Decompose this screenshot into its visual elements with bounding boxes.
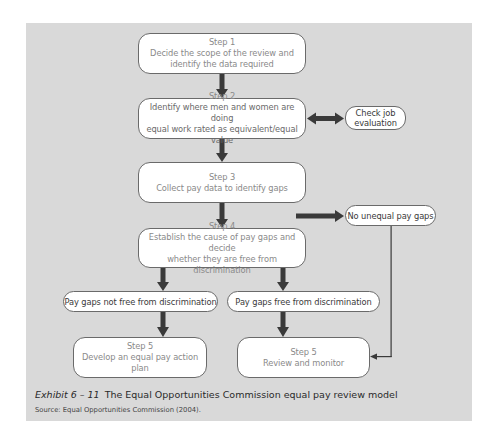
step-5a-heading: Step 5 bbox=[127, 341, 153, 352]
step-2-heading: Step 2 bbox=[209, 91, 235, 102]
check-job-line1: Check job bbox=[356, 108, 396, 118]
step-3-box: Step 3 Collect pay data to identify gaps bbox=[138, 162, 306, 203]
check-job-line2: evaluation bbox=[354, 118, 397, 128]
step-5-action-plan-box: Step 5 Develop an equal pay action plan bbox=[73, 337, 207, 378]
step-3-text-line1: Collect pay data to identify gaps bbox=[156, 183, 288, 194]
step-1-box: Step 1 Decide the scope of the review an… bbox=[138, 33, 306, 74]
pay-gaps-not-free-node: Pay gaps not free from discrimination bbox=[63, 291, 218, 312]
figure-source: Source: Equal Opportunities Commission (… bbox=[35, 406, 201, 414]
step-1-text-line1: Decide the scope of the review and bbox=[150, 48, 294, 59]
pay-gaps-free-node: Pay gaps free from discrimination bbox=[227, 291, 380, 312]
step-1-heading: Step 1 bbox=[209, 37, 235, 48]
step-3-heading: Step 3 bbox=[209, 172, 235, 183]
no-unequal-pay-gaps-node: No unequal pay gaps bbox=[345, 205, 436, 226]
step-5-review-box: Step 5 Review and monitor bbox=[237, 337, 370, 378]
step-1-text-line2: identify the data required bbox=[170, 59, 274, 70]
step-4-box: Step 4 Establish the cause of pay gaps a… bbox=[138, 228, 306, 268]
step-4-text-line2: whether they are free from discriminatio… bbox=[139, 254, 305, 276]
step-2-text-line2: equal work rated as equivalent/equal val… bbox=[139, 124, 305, 146]
free-label: Pay gaps free from discrimination bbox=[235, 297, 371, 307]
step-2-box: Step 2 Identify where men and women are … bbox=[138, 98, 306, 139]
not-free-label: Pay gaps not free from discrimination bbox=[64, 297, 216, 307]
exhibit-number: Exhibit 6 – 11 bbox=[35, 389, 100, 400]
no-gaps-label: No unequal pay gaps bbox=[347, 211, 433, 221]
step-5b-text: Review and monitor bbox=[263, 358, 344, 369]
step-5a-text: Develop an equal pay action plan bbox=[74, 352, 206, 374]
figure-caption: Exhibit 6 – 11The Equal Opportunities Co… bbox=[35, 389, 398, 400]
step-4-heading: Step 4 bbox=[209, 221, 235, 232]
step-2-text-line1: Identify where men and women are doing bbox=[139, 102, 305, 124]
step-4-text-line1: Establish the cause of pay gaps and deci… bbox=[139, 232, 305, 254]
step-5b-heading: Step 5 bbox=[290, 347, 316, 358]
check-job-evaluation-node: Check job evaluation bbox=[345, 106, 406, 130]
caption-title: The Equal Opportunities Commission equal… bbox=[105, 389, 398, 400]
